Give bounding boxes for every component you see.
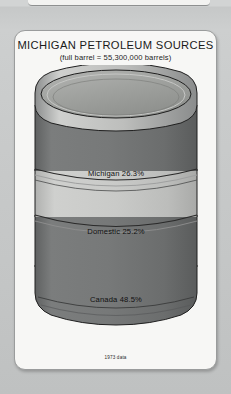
barrel-segment-canada <box>35 265 197 325</box>
barrel-segment-canada-upper <box>35 215 197 267</box>
oil-barrel-icon: Michigan 26.3% Domestic 25.2% Canada 48.… <box>31 65 201 327</box>
chart-footnote: 1973 data <box>15 355 216 360</box>
top-page-edge <box>28 0 210 6</box>
chart-title: MICHIGAN PETROLEUM SOURCES <box>15 39 216 51</box>
barrel-lid <box>41 70 191 118</box>
chart-subtitle: (full barrel = 55,300,000 barrels) <box>15 53 216 62</box>
infographic-card: MICHIGAN PETROLEUM SOURCES (full barrel … <box>14 30 217 370</box>
barrel-svg <box>31 65 201 327</box>
barrel-segment-domestic <box>35 169 197 217</box>
